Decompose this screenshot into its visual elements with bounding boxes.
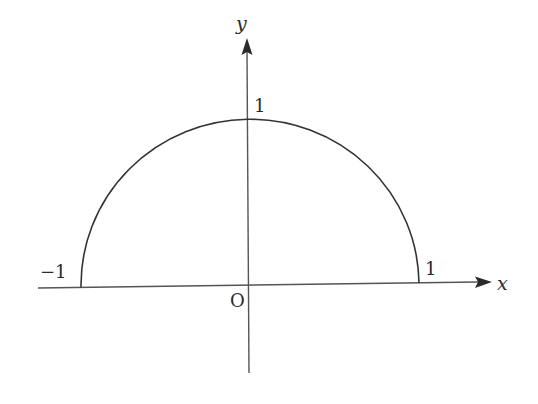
semicircle-arc	[81, 119, 419, 287]
x-axis	[38, 277, 492, 289]
tick-label-x-negative-one: −1	[40, 261, 67, 282]
origin-label: O	[230, 290, 245, 311]
tick-label-y-positive-one: 1	[254, 95, 265, 116]
y-axis-line	[247, 52, 249, 373]
y-axis	[242, 38, 253, 373]
y-axis-label: y	[235, 12, 247, 34]
tick-label-x-positive-one: 1	[425, 258, 436, 279]
semicircle-diagram: y x O −1 1 1	[0, 0, 538, 404]
x-axis-line	[38, 282, 478, 288]
x-axis-label: x	[497, 272, 508, 294]
